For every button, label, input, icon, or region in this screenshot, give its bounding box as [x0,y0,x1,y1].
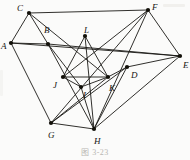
graph-vertex-E [178,54,182,58]
edge-layer [11,10,180,129]
figure-container: ABCDEFGHIJKL 图 3-23 [0,0,190,160]
graph-edge-FJ [63,10,148,77]
graph-vertex-G [49,121,53,125]
graph-vertex-K [106,75,110,79]
graph-vertex-I [79,85,83,89]
graph-edge-CF [29,10,148,13]
vertex-label-G: G [48,131,55,140]
graph-vertex-F [146,8,150,12]
vertex-label-A: A [1,42,7,51]
vertex-label-J: J [53,81,57,90]
graph-edge-FH [94,10,148,129]
graph-vertex-B [46,42,50,46]
graph-edge-JI [63,77,81,87]
graph-vertex-J [61,75,65,79]
graph-edge-LJ [63,36,85,77]
vertex-label-K: K [109,84,115,93]
vertex-label-F: F [152,3,158,12]
graph-edge-IK [81,77,108,87]
vertex-label-I: I [83,91,86,100]
graph-edge-FE [148,10,180,56]
vertex-layer [9,8,182,131]
graph-edge-AG [11,43,51,123]
graph-edge-EH [94,56,180,129]
graph-edge-GH [51,123,94,129]
figure-caption: 图 3-23 [0,146,190,157]
graph-vertex-H [92,127,96,131]
graph-edge-AC [11,13,29,43]
graph-vertex-C [27,11,31,15]
graph-vertex-D [125,65,129,69]
vertex-label-H: H [94,137,101,146]
graph-edge-ED [127,56,180,67]
graph-edge-HD [94,67,127,129]
vertex-label-E: E [183,61,189,70]
vertex-label-L: L [84,26,89,35]
vertex-label-C: C [17,4,23,13]
vertex-label-B: B [44,26,50,35]
vertex-label-D: D [131,71,138,80]
graph-vertex-A [9,41,13,45]
